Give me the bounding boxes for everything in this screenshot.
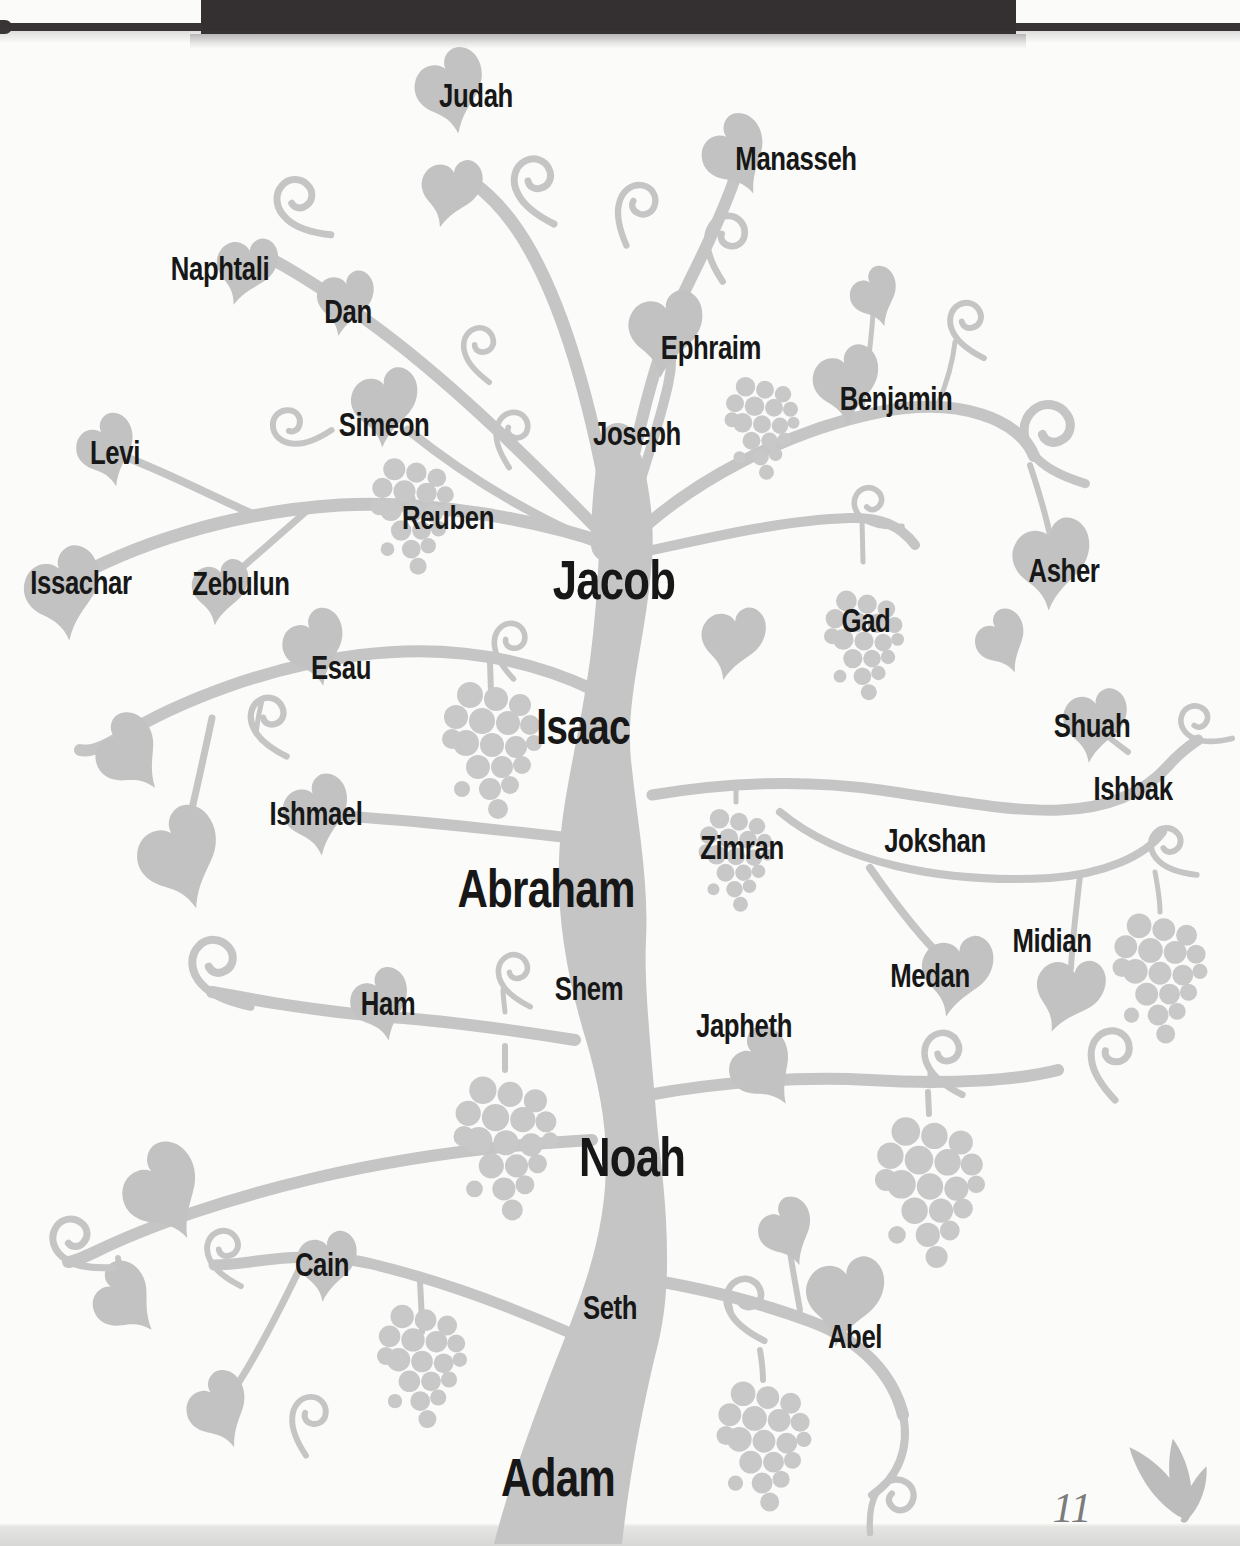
person-label-midian: Midian [1012,924,1091,957]
person-label-medan: Medan [890,959,970,992]
person-label-reuben: Reuben [402,501,494,534]
person-label-abel: Abel [828,1320,882,1353]
person-label-jacob: Jacob [553,552,675,608]
person-label-japheth: Japheth [696,1009,792,1042]
person-label-issachar: Issachar [30,566,131,599]
person-label-simeon: Simeon [339,408,430,441]
person-label-judah: Judah [439,79,513,112]
person-label-adam: Adam [501,1450,615,1504]
person-label-jokshan: Jokshan [884,824,986,857]
person-label-zimran: Zimran [700,831,783,864]
person-label-levi: Levi [90,436,140,469]
person-label-cain: Cain [295,1248,349,1281]
person-label-esau: Esau [311,651,371,684]
person-label-joseph: Joseph [593,417,681,450]
person-label-zebulun: Zebulun [192,567,289,600]
person-label-asher: Asher [1028,554,1099,587]
person-label-manasseh: Manasseh [735,142,856,175]
person-label-dan: Dan [324,295,371,328]
person-label-ishbak: Ishbak [1093,772,1172,805]
person-label-abraham: Abraham [457,861,634,915]
person-label-shem: Shem [555,972,624,1005]
person-label-gad: Gad [842,604,891,637]
person-label-seth: Seth [583,1291,637,1324]
person-label-benjamin: Benjamin [840,382,953,415]
person-label-ishmael: Ishmael [269,797,362,830]
person-label-naphtali: Naphtali [171,252,269,285]
person-label-isaac: Isaac [536,702,630,752]
person-label-noah: Noah [579,1129,685,1185]
person-label-shuah: Shuah [1054,709,1131,742]
person-label-ephraim: Ephraim [661,331,761,364]
person-label-ham: Ham [361,987,416,1020]
